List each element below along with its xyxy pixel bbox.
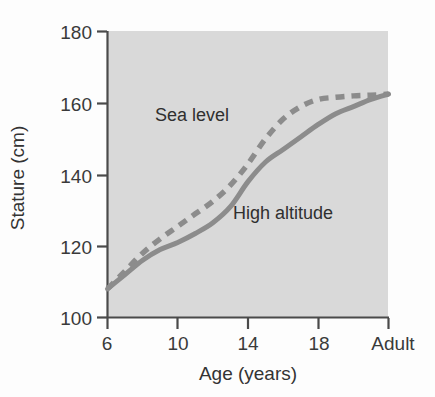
stature-vs-age-line-chart: 180 160 140 120 100 6 10 14 18 Adult Age… [0, 0, 435, 397]
y-tick-label-180: 180 [60, 22, 92, 43]
y-tick-label-100: 100 [60, 308, 92, 329]
series-annotation-sea-level: Sea level [155, 105, 229, 125]
series-annotation-high-altitude: High altitude [233, 203, 333, 223]
x-tick-label-18: 18 [308, 333, 329, 354]
y-axis-title: Stature (cm) [7, 126, 28, 231]
x-tick-label-14: 14 [237, 333, 259, 354]
y-tick-label-120: 120 [60, 237, 92, 258]
x-axis-title: Age (years) [199, 363, 297, 384]
x-tick-label-10: 10 [167, 333, 188, 354]
y-tick-label-140: 140 [60, 166, 92, 187]
y-tick-label-160: 160 [60, 94, 92, 115]
x-axis-ticks [108, 318, 389, 329]
x-tick-label-6: 6 [102, 333, 113, 354]
y-axis-ticks [97, 32, 107, 318]
plot-area-background [107, 31, 388, 318]
figure-container: 180 160 140 120 100 6 10 14 18 Adult Age… [0, 0, 435, 397]
x-tick-label-adult: Adult [371, 333, 415, 354]
